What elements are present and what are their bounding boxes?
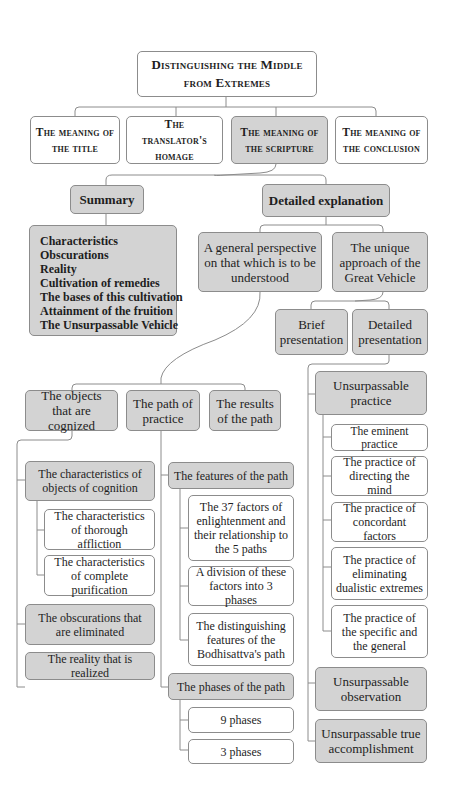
summary-item: Cultivation of remedies [40, 276, 168, 290]
summary-item: The Unsurpassable Vehicle [40, 318, 168, 332]
summary-item: Characteristics [40, 234, 168, 248]
node-division-3-phases: A division of these factors into 3 phase… [188, 566, 294, 606]
node-path-of-practice: The path of practice [126, 390, 200, 431]
node-features-of-path: The features of the path [168, 462, 294, 489]
node-label: The results of the path [214, 396, 276, 426]
node-meaning-of-title: The meaning of the title [30, 116, 120, 164]
node-phases-of-path: The phases of the path [168, 673, 294, 700]
node-unsurpassable-observation: Unsurpassable observation [315, 667, 427, 711]
node-label: The translator's homage [131, 116, 218, 164]
node-brief-presentation: Brief presentation [275, 309, 348, 355]
node-label: Brief presentation [280, 317, 344, 347]
node-specific-general: The practice of the specific and the gen… [331, 605, 428, 658]
node-characteristics-objects: The characteristics of objects of cognit… [25, 461, 155, 501]
node-37-factors: The 37 factors of enlightenment and thei… [188, 495, 294, 561]
node-label: The practice of the specific and the gen… [336, 611, 423, 653]
node-eliminating-dualistic-extremes: The practice of eliminating dualistic ex… [331, 547, 428, 600]
node-label: The meaning of the conclusion [340, 124, 423, 156]
node-reality-realized: The reality that is realized [25, 652, 155, 680]
summary-item: Reality [40, 262, 168, 276]
node-unique-approach: The unique approach of the Great Vehicle [332, 232, 428, 292]
root-title-label: Distinguishing the Middle from Extremes [142, 56, 312, 92]
node-label: The meaning of the scripture [236, 124, 323, 156]
node-summary: Summary [70, 185, 144, 214]
node-label: The eminent practice [336, 425, 423, 451]
node-label: A general perspective on that which is t… [203, 240, 317, 285]
node-label: Unsurpassable practice [320, 378, 422, 408]
node-label: The unique approach of the Great Vehicle [337, 240, 423, 285]
node-label: Detailed explanation [269, 194, 383, 208]
node-directing-mind: The practice of directing the mind [331, 456, 428, 496]
node-label: The characteristics of complete purifica… [49, 555, 150, 597]
node-label: Unsurpassable observation [320, 674, 422, 704]
node-concordant-factors: The practice of concordant factors [331, 502, 428, 542]
node-label: Detailed presentation [357, 317, 423, 347]
node-detailed-explanation: Detailed explanation [262, 184, 390, 217]
node-unsurpassable-accomplishment: Unsurpassable true accomplishment [315, 719, 427, 763]
node-label: The objects that are cognized [30, 388, 113, 433]
node-label: 9 phases [221, 713, 262, 727]
node-label: The practice of directing the mind [336, 455, 423, 497]
node-obscurations-eliminated: The obscurations that are eliminated [25, 604, 155, 645]
node-label: The characteristics of objects of cognit… [30, 467, 150, 495]
node-9-phases: 9 phases [188, 707, 294, 733]
node-thorough-affliction: The characteristics of thorough afflicti… [44, 509, 155, 550]
node-label: The meaning of the title [35, 124, 115, 156]
node-eminent-practice: The eminent practice [331, 424, 428, 451]
node-label: The path of practice [131, 396, 195, 426]
node-label: Unsurpassable true accomplishment [320, 726, 422, 756]
summary-item: Attainment of the fruition [40, 304, 168, 318]
node-label: The practice of concordant factors [336, 501, 423, 543]
node-meaning-of-scripture: The meaning of the scripture [231, 116, 328, 164]
node-meaning-of-conclusion: The meaning of the conclusion [335, 116, 428, 164]
node-objects-cognized: The objects that are cognized [25, 390, 118, 431]
node-results-of-path: The results of the path [209, 390, 281, 431]
node-label: The practice of eliminating dualistic ex… [336, 553, 423, 595]
node-3-phases: 3 phases [188, 739, 294, 764]
root-title-node: Distinguishing the Middle from Extremes [137, 51, 317, 97]
node-unsurpassable-practice: Unsurpassable practice [315, 371, 427, 415]
node-complete-purification: The characteristics of complete purifica… [44, 555, 155, 596]
node-label: The obscurations that are eliminated [30, 611, 150, 639]
summary-item: The bases of this cultivation [40, 290, 168, 304]
node-label: 3 phases [221, 745, 262, 759]
node-general-perspective: A general perspective on that which is t… [198, 232, 322, 292]
node-label: The reality that is realized [30, 652, 150, 680]
summary-list: Characteristics Obscurations Reality Cul… [29, 225, 177, 336]
node-label: The features of the path [174, 469, 288, 483]
node-label: The characteristics of thorough afflicti… [49, 509, 150, 551]
summary-item: Obscurations [40, 248, 168, 262]
node-label: Summary [80, 193, 135, 207]
node-label: The distinguishing features of the Bodhi… [193, 619, 289, 661]
node-translators-homage: The translator's homage [126, 116, 223, 164]
node-detailed-presentation: Detailed presentation [352, 309, 428, 355]
node-label: The 37 factors of enlightenment and thei… [193, 500, 289, 556]
node-bodhisattva-path: The distinguishing features of the Bodhi… [188, 613, 294, 666]
node-label: The phases of the path [177, 680, 285, 694]
node-label: A division of these factors into 3 phase… [193, 565, 289, 607]
